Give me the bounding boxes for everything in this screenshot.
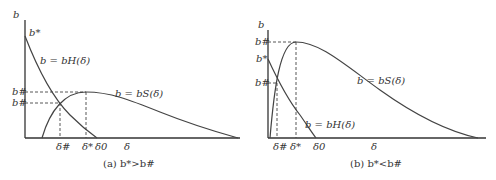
figure: b b* b# b# δ# δ* δ0 δ b = bH(δ) b = bS(δ… [0, 0, 496, 180]
tick-dstar: δ* [82, 141, 93, 152]
tick-bstar: b* [256, 53, 267, 64]
label-bS: b = bS(δ) [357, 75, 405, 86]
tick-dsup: δ# [273, 141, 287, 152]
tick-bhash: b# [255, 36, 270, 47]
curve-bS [270, 42, 478, 138]
label-bH: b = bH(δ) [305, 119, 355, 130]
tick-bhash: b# [12, 86, 27, 97]
panel-a: b b* b# b# δ# δ* δ0 δ b = bH(δ) b = bS(δ… [12, 9, 240, 169]
tick-dsup: δ# [56, 141, 70, 152]
panel-b: b b# b* b# δ# δ* δ0 δ b = bH(δ) b = bS(δ… [255, 19, 486, 169]
label-bH: b = bH(δ) [40, 55, 90, 66]
tick-d0: δ0 [95, 141, 108, 152]
label-bS: b = bS(δ) [115, 88, 163, 99]
tick-bsup: b# [12, 97, 27, 108]
caption-b: (b) b*<b# [350, 158, 402, 169]
y-label: b [258, 19, 264, 30]
tick-dstar: δ* [290, 141, 301, 152]
caption-a: (a) b*>b# [103, 158, 155, 169]
tick-bstar: b* [29, 27, 40, 38]
tick-d0: δ0 [313, 141, 326, 152]
tick-bsup: b# [255, 77, 270, 88]
y-label: b [13, 9, 19, 20]
x-label: δ [371, 141, 377, 152]
x-label: δ [124, 141, 130, 152]
